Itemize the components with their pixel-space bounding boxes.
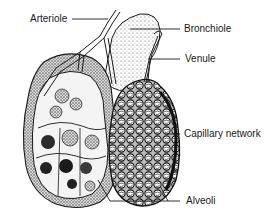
label-venule: Venule [185,54,216,64]
capillary-network-lobe [109,79,180,206]
label-alveoli: Alveoli [186,196,215,206]
label-capillary-network: Capillary network [184,129,261,139]
alveolar-sac-left [23,54,118,208]
label-bronchiole: Bronchiole [184,24,231,34]
label-arteriole: Arteriole [30,14,67,24]
